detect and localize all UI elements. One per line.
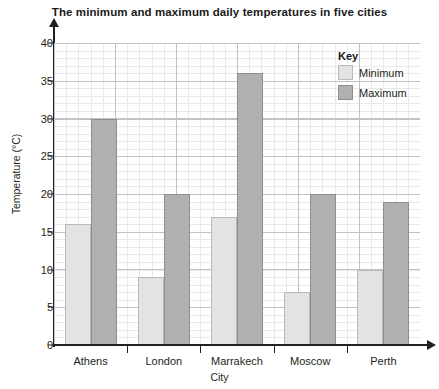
legend-title: Key	[338, 50, 434, 62]
bar-marrakech-minimum	[211, 217, 237, 345]
legend: Key Minimum Maximum	[338, 50, 434, 105]
x-axis-title: City	[0, 371, 439, 383]
legend-label-minimum: Minimum	[359, 67, 404, 79]
x-tick-label-perth: Perth	[370, 355, 396, 367]
bar-london-maximum	[164, 194, 190, 345]
y-axis-arrow-icon	[49, 18, 59, 27]
bar-marrakech-maximum	[237, 73, 263, 345]
legend-swatch-maximum	[338, 85, 353, 100]
x-tick-mark	[274, 346, 275, 353]
bar-chart: The minimum and maximum daily temperatur…	[0, 0, 439, 389]
x-tick-label-athens: Athens	[73, 355, 107, 367]
y-axis-ticks: 0510152025303540	[18, 0, 53, 389]
bar-athens-maximum	[91, 119, 117, 346]
x-axis-line	[53, 344, 428, 346]
bar-moscow-minimum	[284, 292, 310, 345]
legend-label-maximum: Maximum	[359, 87, 407, 99]
x-axis-arrow-icon	[427, 340, 436, 350]
x-tick-mark	[127, 346, 128, 353]
x-tick-label-marrakech: Marrakech	[211, 355, 263, 367]
bar-perth-maximum	[383, 202, 409, 345]
bar-athens-minimum	[65, 224, 91, 345]
x-tick-mark	[347, 346, 348, 353]
bar-perth-minimum	[357, 270, 383, 346]
bar-moscow-maximum	[310, 194, 336, 345]
legend-swatch-minimum	[338, 65, 353, 80]
x-tick-mark	[200, 346, 201, 353]
x-tick-label-moscow: Moscow	[290, 355, 330, 367]
bar-london-minimum	[138, 277, 164, 345]
legend-item-minimum: Minimum	[338, 65, 434, 80]
chart-title: The minimum and maximum daily temperatur…	[0, 6, 439, 18]
x-tick-label-london: London	[145, 355, 182, 367]
legend-item-maximum: Maximum	[338, 85, 434, 100]
